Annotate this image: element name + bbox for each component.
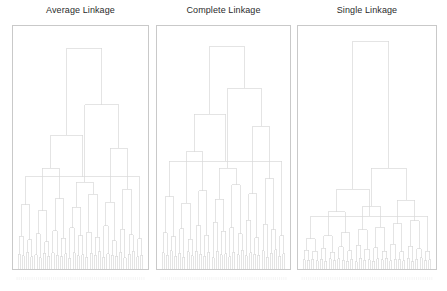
- leaf-labels-average-linkage: [12, 274, 149, 284]
- dendrogram-links: [18, 48, 143, 269]
- axes-complete-linkage: [156, 25, 291, 270]
- dendrogram-single-linkage: [298, 26, 436, 269]
- panel-title-complete-linkage: Complete Linkage: [156, 5, 291, 15]
- panel-complete-linkage: Complete Linkage: [156, 0, 291, 291]
- axes-average-linkage: [12, 25, 149, 270]
- panel-average-linkage: Average Linkage: [12, 0, 149, 291]
- dendrogram-links: [303, 41, 431, 269]
- panel-single-linkage: Single Linkage: [297, 0, 437, 291]
- leaf-labels-complete-linkage: [156, 274, 291, 284]
- axes-single-linkage: [297, 25, 437, 270]
- dendrogram-links: [162, 46, 285, 269]
- leaf-labels-single-linkage: [297, 274, 437, 284]
- dendrogram-average-linkage: [13, 26, 148, 269]
- dendrogram-figure: Average LinkageComplete LinkageSingle Li…: [0, 0, 447, 291]
- dendrogram-complete-linkage: [157, 26, 290, 269]
- panel-title-average-linkage: Average Linkage: [12, 5, 149, 15]
- panel-title-single-linkage: Single Linkage: [297, 5, 437, 15]
